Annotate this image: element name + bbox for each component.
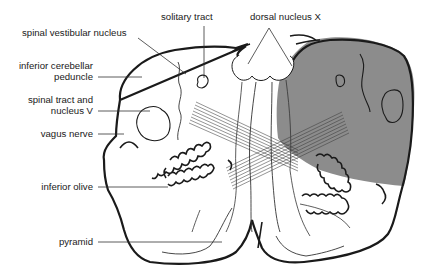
midline-left-inner: [226, 82, 242, 232]
pyramid-inner-left: [192, 210, 200, 232]
pyramid-left-contour: [162, 208, 232, 254]
vagus-nerve-contour: [120, 142, 138, 148]
inferior-olive-left: [152, 142, 232, 185]
label-spinal-tract-line1: spinal tract and: [28, 94, 93, 105]
pyramid-inner-right: [300, 204, 350, 228]
shaded-lesion-region: [277, 37, 415, 186]
midline-raphe-left: [249, 82, 256, 232]
label-solitary-tract: solitary tract: [161, 11, 213, 22]
solitary-tract-nucleus: [197, 75, 208, 88]
label-vagus-nerve: vagus nerve: [41, 128, 93, 139]
dorsal-nucleus-x-lobes: [232, 56, 294, 81]
label-spinal-tract-line2: nucleus V: [51, 105, 93, 116]
label-spinal-vestibular-nucleus: spinal vestibular nucleus: [22, 27, 127, 38]
label-inferior-olive: inferior olive: [41, 181, 93, 192]
label-inferior-cerebellar-peduncle-line2: peduncle: [54, 71, 93, 82]
label-inferior-cerebellar-peduncle-line1: inferior cerebellar: [19, 60, 93, 71]
spinal-tract-nucleus-v: [137, 107, 170, 141]
medulla-diagram: spinal vestibular nucleus solitary tract…: [0, 0, 428, 276]
label-pyramid: pyramid: [59, 236, 93, 247]
pyramid-right-contour: [276, 236, 344, 256]
label-dorsal-nucleus-x: dorsal nucleus X: [250, 11, 321, 22]
